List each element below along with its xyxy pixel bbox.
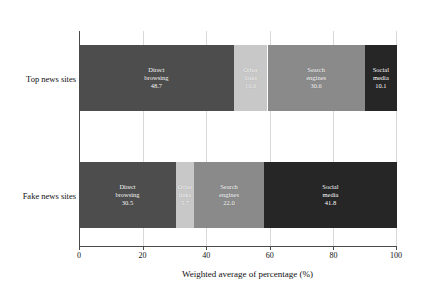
segment-value: 41.8 xyxy=(325,199,336,207)
segment-label-line1: Search xyxy=(220,183,238,191)
segment-label-line1: Search xyxy=(307,66,325,74)
segment-direct-browsing-top[interactable]: Direct browsing 48.7 xyxy=(79,45,234,111)
segment-label-line1: Other xyxy=(178,183,193,191)
segment-label-line2: engines xyxy=(306,74,326,82)
x-axis-line xyxy=(79,246,397,247)
segment-label-line2: links xyxy=(179,191,192,199)
segment-other-links-top[interactable]: Other links 10.6 xyxy=(234,45,268,111)
segment-value: 30.6 xyxy=(310,82,321,90)
tick-label-0: 0 xyxy=(77,251,81,260)
stacked-bar-chart: Direct browsing 48.7 Other links 10.6 Se… xyxy=(0,0,425,298)
segment-label-line2: media xyxy=(323,191,339,199)
category-label-top-news-sites: Top news sites xyxy=(2,74,76,84)
segment-label-line1: Direct xyxy=(119,183,135,191)
segment-other-links-fake[interactable]: Other links 5.7 xyxy=(176,162,194,228)
tick-label-20: 20 xyxy=(139,251,147,260)
segment-label-line2: engines xyxy=(219,191,239,199)
segment-label-line2: browsing xyxy=(115,191,139,199)
tick-mark-40 xyxy=(206,246,207,250)
tick-mark-60 xyxy=(270,246,271,250)
x-axis-title-text: Weighted average of percentage (%) xyxy=(112,269,313,279)
segment-value: 48.7 xyxy=(151,82,162,90)
plot-area: Direct browsing 48.7 Other links 10.6 Se… xyxy=(79,31,397,246)
tick-label-100: 100 xyxy=(390,251,402,260)
tick-mark-20 xyxy=(143,246,144,250)
category-label-fake-news-sites: Fake news sites xyxy=(2,191,76,201)
tick-mark-100 xyxy=(396,246,397,250)
tick-label-40: 40 xyxy=(202,251,210,260)
segment-label-line1: Direct xyxy=(148,66,164,74)
segment-value: 5.7 xyxy=(181,199,189,207)
segment-label-line1: Social xyxy=(373,66,389,74)
x-axis-title: Weighted average of percentage (%) xyxy=(0,269,425,279)
tick-mark-80 xyxy=(333,246,334,250)
segment-search-engines-fake[interactable]: Search engines 22.0 xyxy=(194,162,264,228)
segment-social-media-top[interactable]: Social media 10.1 xyxy=(365,45,397,111)
segment-direct-browsing-fake[interactable]: Direct browsing 30.5 xyxy=(79,162,176,228)
segment-label-line1: Social xyxy=(322,183,338,191)
tick-mark-0 xyxy=(79,246,80,250)
segment-label-line1: Other xyxy=(243,66,258,74)
segment-label-line2: browsing xyxy=(144,74,168,82)
segment-value: 10.1 xyxy=(375,82,386,90)
segment-label-line2: links xyxy=(244,74,257,82)
segment-search-engines-top[interactable]: Search engines 30.6 xyxy=(268,45,365,111)
segment-value: 30.5 xyxy=(122,199,133,207)
segment-label-line2: media xyxy=(373,74,389,82)
segment-value: 22.0 xyxy=(223,199,234,207)
y-axis-line xyxy=(79,31,80,246)
tick-label-60: 60 xyxy=(266,251,274,260)
tick-label-80: 80 xyxy=(329,251,337,260)
segment-social-media-fake[interactable]: Social media 41.8 xyxy=(264,162,397,228)
segment-value: 10.6 xyxy=(245,82,256,90)
